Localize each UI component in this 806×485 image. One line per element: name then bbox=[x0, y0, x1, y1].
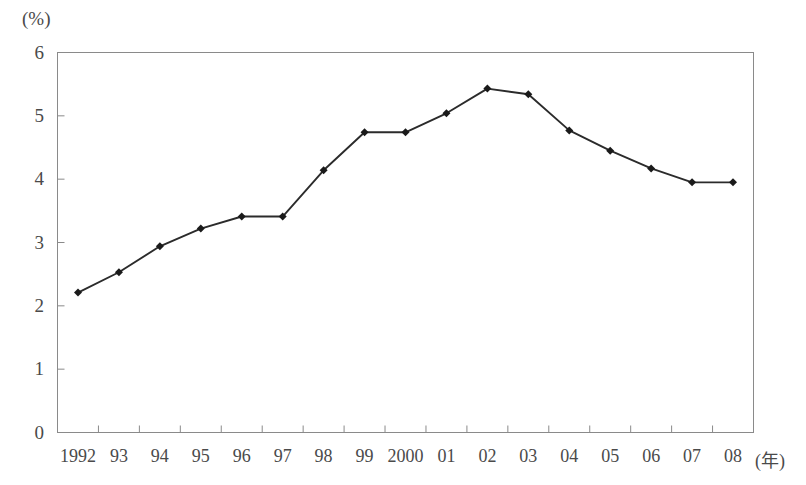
y-axis-tick-label: 0 bbox=[14, 422, 44, 444]
data-point-marker bbox=[238, 213, 246, 221]
data-point-marker bbox=[402, 128, 410, 136]
x-axis-tick-label: 05 bbox=[601, 446, 619, 467]
data-point-marker bbox=[74, 289, 82, 297]
x-axis-tick-label: 95 bbox=[192, 446, 210, 467]
data-point-marker bbox=[688, 178, 696, 186]
x-axis-tick-label: 03 bbox=[519, 446, 537, 467]
x-axis-tick-label: 97 bbox=[274, 446, 292, 467]
y-axis-tick-label: 4 bbox=[14, 168, 44, 190]
plot-border bbox=[58, 53, 754, 433]
x-axis-tick-label: 06 bbox=[642, 446, 660, 467]
y-axis-tick-label: 1 bbox=[14, 358, 44, 380]
series-line bbox=[78, 89, 733, 293]
y-axis-tick-label: 5 bbox=[14, 105, 44, 127]
y-axis-tick-label: 6 bbox=[14, 42, 44, 64]
y-axis-tick-label: 3 bbox=[14, 232, 44, 254]
x-axis-tick-label: 07 bbox=[683, 446, 701, 467]
data-point-marker bbox=[606, 147, 614, 155]
data-point-marker bbox=[647, 164, 655, 172]
x-axis-tick-label: 96 bbox=[233, 446, 251, 467]
x-axis-tick-label: 1992 bbox=[60, 446, 96, 467]
x-axis-tick-label: 04 bbox=[560, 446, 578, 467]
x-axis-tick-label: 93 bbox=[110, 446, 128, 467]
x-axis-tick-label: 99 bbox=[356, 446, 374, 467]
x-axis-unit-label: (年) bbox=[755, 446, 785, 472]
x-axis-tick-label: 98 bbox=[315, 446, 333, 467]
y-axis-ticks bbox=[58, 116, 65, 369]
x-axis-tick-label: 2000 bbox=[388, 446, 424, 467]
y-axis-tick-label: 2 bbox=[14, 295, 44, 317]
x-axis-tick-label: 08 bbox=[724, 446, 742, 467]
x-axis-ticks bbox=[98, 426, 712, 433]
line-chart-plot bbox=[0, 0, 806, 485]
data-point-marker bbox=[442, 109, 450, 117]
series-markers bbox=[74, 85, 737, 297]
x-axis-tick-label: 02 bbox=[478, 446, 496, 467]
chart-container: (%) 0123456 1992939495969798992000010203… bbox=[0, 0, 806, 485]
plot-frame bbox=[58, 53, 754, 433]
data-point-marker bbox=[197, 225, 205, 233]
x-axis-tick-label: 94 bbox=[151, 446, 169, 467]
data-point-marker bbox=[729, 178, 737, 186]
data-point-marker bbox=[483, 85, 491, 93]
x-axis-tick-label: 01 bbox=[437, 446, 455, 467]
